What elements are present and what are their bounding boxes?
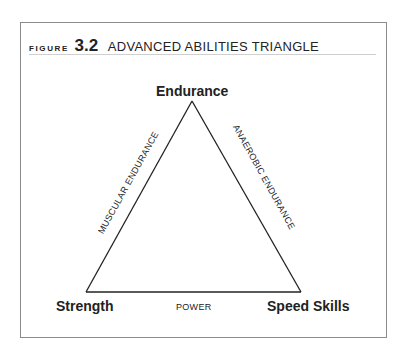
edge-label-power: POWER [176,302,212,312]
vertex-strength: Strength [56,298,114,314]
vertex-speed-skills: Speed Skills [267,298,349,314]
edge-left-line [86,101,192,292]
vertex-endurance: Endurance [156,83,228,99]
edge-right-line [192,101,301,292]
